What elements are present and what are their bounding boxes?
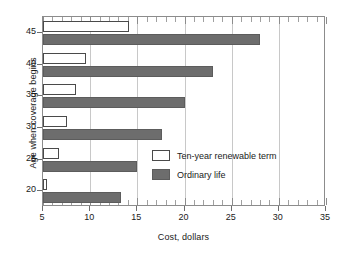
y-tick-label: 30 bbox=[14, 121, 36, 131]
bar-term-age-25 bbox=[43, 148, 59, 159]
x-tick-major bbox=[137, 17, 138, 24]
x-axis-tick bbox=[231, 206, 232, 211]
chart-legend: Ten-year renewable term Ordinary life bbox=[152, 150, 277, 188]
x-tick-major bbox=[232, 198, 233, 205]
y-axis-tick bbox=[37, 32, 42, 33]
x-tick-minor bbox=[166, 200, 167, 205]
bar-ordinary-age-40 bbox=[43, 66, 213, 77]
bar-term-age-45 bbox=[43, 21, 129, 32]
x-tick-major bbox=[185, 198, 186, 205]
x-tick-minor bbox=[194, 200, 195, 205]
bar-chart: Age when coverage begins Cost, dollars T… bbox=[0, 0, 344, 255]
bar-ordinary-age-30 bbox=[43, 129, 162, 140]
x-tick-minor bbox=[260, 17, 261, 22]
gridline-vertical bbox=[279, 17, 280, 205]
legend-item-term: Ten-year renewable term bbox=[152, 150, 277, 161]
legend-swatch-ordinary-icon bbox=[152, 169, 170, 180]
legend-label-ordinary: Ordinary life bbox=[177, 170, 226, 180]
x-tick-minor bbox=[288, 200, 289, 205]
x-tick-minor bbox=[260, 200, 261, 205]
x-tick-minor bbox=[128, 200, 129, 205]
x-tick-minor bbox=[251, 200, 252, 205]
x-axis-tick bbox=[325, 206, 326, 211]
x-tick-minor bbox=[222, 17, 223, 22]
x-tick-major bbox=[232, 17, 233, 24]
y-axis-tick bbox=[37, 95, 42, 96]
x-tick-label: 5 bbox=[30, 212, 54, 222]
x-tick-minor bbox=[203, 17, 204, 22]
y-axis-title: Age when coverage begins bbox=[28, 18, 38, 208]
x-tick-major bbox=[137, 198, 138, 205]
y-tick-label: 45 bbox=[14, 26, 36, 36]
x-tick-minor bbox=[241, 200, 242, 205]
bar-term-age-40 bbox=[43, 53, 86, 64]
x-tick-minor bbox=[175, 17, 176, 22]
y-axis-tick bbox=[37, 127, 42, 128]
x-axis-tick bbox=[278, 206, 279, 211]
x-tick-minor bbox=[156, 17, 157, 22]
x-axis-tick bbox=[89, 206, 90, 211]
x-tick-minor bbox=[251, 17, 252, 22]
x-tick-minor bbox=[288, 17, 289, 22]
x-tick-minor bbox=[317, 17, 318, 22]
x-tick-minor bbox=[147, 200, 148, 205]
bar-ordinary-age-35 bbox=[43, 97, 185, 108]
x-tick-minor bbox=[298, 17, 299, 22]
x-tick-label: 10 bbox=[77, 212, 101, 222]
y-tick-label: 25 bbox=[14, 153, 36, 163]
bar-term-age-35 bbox=[43, 84, 76, 95]
x-tick-major bbox=[279, 198, 280, 205]
x-tick-minor bbox=[307, 17, 308, 22]
gridline-vertical bbox=[90, 17, 91, 205]
x-axis-tick bbox=[184, 206, 185, 211]
x-tick-major bbox=[326, 198, 327, 205]
bar-ordinary-age-20 bbox=[43, 192, 121, 203]
x-tick-label: 30 bbox=[266, 212, 290, 222]
x-tick-minor bbox=[213, 200, 214, 205]
x-tick-minor bbox=[175, 200, 176, 205]
x-tick-minor bbox=[166, 17, 167, 22]
x-tick-label: 25 bbox=[219, 212, 243, 222]
gridline-vertical bbox=[137, 17, 138, 205]
x-tick-minor bbox=[298, 200, 299, 205]
x-tick-minor bbox=[194, 17, 195, 22]
x-axis-tick bbox=[136, 206, 137, 211]
legend-label-term: Ten-year renewable term bbox=[177, 151, 277, 161]
legend-swatch-term-icon bbox=[152, 150, 170, 161]
x-tick-minor bbox=[269, 17, 270, 22]
x-tick-label: 35 bbox=[313, 212, 337, 222]
y-tick-label: 35 bbox=[14, 89, 36, 99]
bar-term-age-30 bbox=[43, 116, 67, 127]
legend-item-ordinary: Ordinary life bbox=[152, 169, 277, 180]
x-tick-label: 15 bbox=[124, 212, 148, 222]
x-tick-minor bbox=[269, 200, 270, 205]
x-tick-major bbox=[326, 17, 327, 24]
x-tick-minor bbox=[156, 200, 157, 205]
x-axis-title: Cost, dollars bbox=[42, 232, 325, 242]
x-tick-minor bbox=[213, 17, 214, 22]
bar-term-age-20 bbox=[43, 179, 47, 190]
y-tick-label: 40 bbox=[14, 58, 36, 68]
x-tick-major bbox=[279, 17, 280, 24]
x-tick-minor bbox=[241, 17, 242, 22]
y-axis-tick bbox=[37, 159, 42, 160]
y-axis-tick bbox=[37, 190, 42, 191]
x-tick-major bbox=[185, 17, 186, 24]
y-tick-label: 20 bbox=[14, 184, 36, 194]
bar-ordinary-age-45 bbox=[43, 34, 260, 45]
x-tick-minor bbox=[147, 17, 148, 22]
y-axis-tick bbox=[37, 64, 42, 65]
x-tick-minor bbox=[317, 200, 318, 205]
x-axis-tick bbox=[42, 206, 43, 211]
x-tick-label: 20 bbox=[172, 212, 196, 222]
x-tick-minor bbox=[307, 200, 308, 205]
bar-ordinary-age-25 bbox=[43, 161, 137, 172]
x-tick-minor bbox=[222, 200, 223, 205]
x-tick-minor bbox=[203, 200, 204, 205]
